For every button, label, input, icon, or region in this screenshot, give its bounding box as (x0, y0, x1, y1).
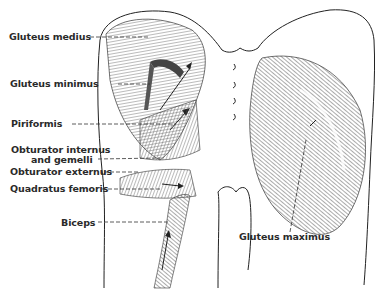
label-obturator-externus: Obturator externus (10, 166, 112, 177)
label-gluteus-maximus: Gluteus maximus (239, 231, 330, 242)
label-biceps: Biceps (61, 217, 95, 228)
label-gluteus-minimus: Gluteus minimus (10, 78, 99, 89)
label-gluteus-medius: Gluteus medius (9, 31, 91, 42)
label-gemelli: and gemelli (31, 154, 93, 165)
anatomy-figure: Gluteus medius Gluteus minimus Piriformi… (0, 0, 386, 290)
label-piriformis: Piriformis (11, 118, 62, 129)
label-quadratus-femoris: Quadratus femoris (10, 183, 108, 194)
